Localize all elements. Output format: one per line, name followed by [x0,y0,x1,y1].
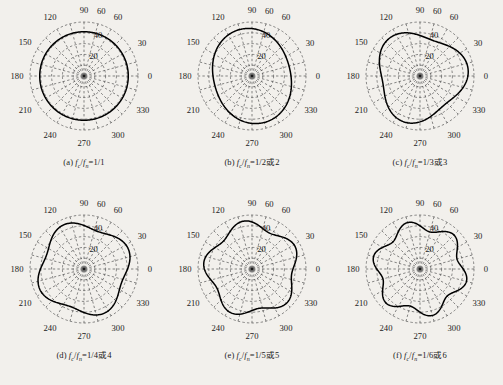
angle-tick-label: 120 [380,12,393,22]
angle-tick-label: 270 [414,138,427,148]
angle-tick-label: 60 [433,199,442,209]
angle-tick-label: 60 [282,205,291,215]
angle-tick-label: 60 [97,6,106,16]
angle-tick-label: 0 [316,264,320,274]
angle-tick-label: 180 [179,71,192,81]
radial-tick-label: 40 [94,222,103,232]
angle-tick-label: 270 [246,331,259,341]
polar-origin [251,75,254,78]
angle-tick-label: 180 [347,264,360,274]
polar-plot-f: 0306060901201501802102402703003302040 [336,195,503,355]
angle-tick-label: 180 [179,264,192,274]
angle-tick-label: 330 [304,298,317,308]
radial-tick-label: 20 [257,243,266,253]
radial-tick-label: 40 [94,30,103,40]
angle-tick-label: 0 [316,71,320,81]
angle-tick-label: 240 [380,323,393,333]
angle-tick-label: 210 [187,105,200,115]
polar-plot-b: 0306060901201501802102402703003302040 [168,2,336,162]
angle-tick-label: 150 [355,230,368,240]
angle-tick-label: 210 [19,298,32,308]
polar-plot-e: 0306060901201501802102402703003302040 [168,195,336,355]
angle-tick-label: 120 [380,205,393,215]
angle-tick-label: 60 [282,12,291,22]
angle-tick-label: 210 [187,298,200,308]
polar-plot-figure: 0306060901201501802102402703003302040(a)… [0,0,503,385]
plot-area-d: 0306060901201501802102402703003302040 [0,195,168,355]
radial-tick-label: 40 [262,30,271,40]
angle-tick-label: 150 [19,37,32,47]
panel-f: 0306060901201501802102402703003302040(f)… [336,193,503,385]
angle-tick-label: 180 [347,71,360,81]
angle-tick-label: 150 [19,230,32,240]
angle-tick-label: 330 [136,298,149,308]
angle-tick-label: 150 [187,37,200,47]
angle-tick-label: 120 [44,12,57,22]
angle-tick-label: 30 [474,230,483,240]
polar-origin [83,75,86,78]
plot-area-f: 0306060901201501802102402703003302040 [336,195,503,355]
angle-tick-label: 210 [355,105,368,115]
angle-tick-label: 240 [212,323,225,333]
angle-tick-label: 60 [265,6,274,16]
angle-tick-label: 60 [450,12,459,22]
radial-tick-label: 40 [430,30,439,40]
angle-tick-label: 60 [114,12,123,22]
angle-tick-label: 90 [80,198,89,208]
panel-a: 0306060901201501802102402703003302040(a)… [0,0,168,193]
angle-tick-label: 150 [355,37,368,47]
polar-origin [83,267,86,270]
angle-tick-label: 60 [114,205,123,215]
angle-tick-label: 60 [265,199,274,209]
angle-tick-label: 300 [112,323,125,333]
angle-tick-label: 120 [212,12,225,22]
panel-d: 0306060901201501802102402703003302040(d)… [0,193,168,385]
angle-tick-label: 180 [11,71,24,81]
polar-plot-d: 0306060901201501802102402703003302040 [0,195,168,355]
angle-tick-label: 90 [416,5,425,15]
angle-tick-label: 330 [304,105,317,115]
plot-area-e: 0306060901201501802102402703003302040 [168,195,336,355]
angle-tick-label: 270 [78,331,91,341]
angle-tick-label: 300 [280,130,293,140]
angle-tick-label: 300 [280,323,293,333]
panel-c: 0306060901201501802102402703003302040(c)… [336,0,503,193]
angle-tick-label: 330 [472,105,485,115]
angle-tick-label: 90 [416,198,425,208]
panel-b: 0306060901201501802102402703003302040(b)… [168,0,336,193]
angle-tick-label: 30 [138,38,147,48]
angle-tick-label: 270 [78,138,91,148]
angle-tick-label: 30 [474,38,483,48]
angle-tick-label: 240 [44,130,57,140]
radial-tick-label: 20 [425,51,434,61]
angle-tick-label: 300 [112,130,125,140]
radial-tick-label: 20 [257,51,266,61]
polar-plot-c: 0306060901201501802102402703003302040 [336,2,503,162]
angle-tick-label: 270 [246,138,259,148]
angle-tick-label: 240 [380,130,393,140]
plot-area-b: 0306060901201501802102402703003302040 [168,2,336,162]
angle-tick-label: 240 [212,130,225,140]
angle-tick-label: 0 [148,71,152,81]
angle-tick-label: 60 [97,199,106,209]
angle-tick-label: 210 [19,105,32,115]
angle-tick-label: 180 [11,264,24,274]
radial-tick-label: 20 [89,51,98,61]
angle-tick-label: 30 [138,230,147,240]
polar-origin [419,267,422,270]
angle-tick-label: 30 [306,230,315,240]
angle-tick-label: 120 [212,205,225,215]
angle-tick-label: 30 [306,38,315,48]
radial-tick-label: 20 [89,243,98,253]
angle-tick-label: 0 [148,264,152,274]
polar-plot-a: 0306060901201501802102402703003302040 [0,2,168,162]
radial-tick-label: 40 [430,222,439,232]
angle-tick-label: 120 [44,205,57,215]
polar-origin [419,75,422,78]
angle-tick-label: 300 [448,130,461,140]
angle-tick-label: 60 [450,205,459,215]
panel-e: 0306060901201501802102402703003302040(e)… [168,193,336,385]
angle-tick-label: 90 [80,5,89,15]
angle-tick-label: 90 [248,198,257,208]
angle-tick-label: 210 [355,298,368,308]
